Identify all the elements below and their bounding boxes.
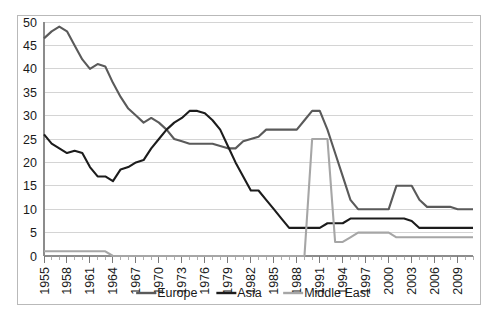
x-axis-tick-label: 2009: [451, 267, 465, 295]
x-axis-tick-label: 1979: [221, 267, 235, 295]
legend-label-asia: Asia: [237, 286, 261, 300]
y-axis-tick-label: 35: [23, 86, 37, 100]
chart-figure: 0510152025303540455019551958196119641967…: [0, 0, 497, 321]
x-axis-tick-label: 2006: [428, 267, 442, 295]
line-chart-plot: 0510152025303540455019551958196119641967…: [0, 0, 497, 321]
y-axis-tick-label: 15: [23, 179, 37, 193]
y-axis-tick-label: 10: [23, 203, 37, 217]
x-axis-tick-label: 1985: [267, 267, 281, 295]
series-line-middle-east: [44, 139, 473, 256]
y-axis-tick-label: 25: [23, 133, 37, 147]
x-axis-tick-label: 1955: [38, 267, 52, 295]
legend-label-middle-east: Middle East: [304, 286, 370, 300]
x-axis-tick-label: 1958: [60, 267, 74, 295]
series-line-europe: [44, 27, 473, 210]
x-axis-tick-label: 1964: [106, 267, 120, 295]
y-axis-tick-label: 5: [30, 226, 37, 240]
series-line-asia: [44, 111, 473, 228]
y-axis-tick-label: 50: [23, 16, 37, 30]
y-axis-tick-label: 40: [23, 62, 37, 76]
x-axis-tick-label: 1976: [198, 267, 212, 295]
y-axis-tick-label: 45: [23, 39, 37, 53]
x-axis-tick-label: 2000: [382, 267, 396, 295]
x-axis-tick-label: 1967: [129, 267, 143, 295]
x-axis-tick-label: 2003: [405, 267, 419, 295]
x-axis-tick-label: 1988: [290, 267, 304, 295]
y-axis-tick-label: 0: [30, 250, 37, 264]
y-axis-tick-label: 20: [23, 156, 37, 170]
legend-label-europe: Europe: [157, 286, 197, 300]
x-axis-tick-label: 1961: [83, 267, 97, 295]
y-axis-tick-label: 30: [23, 109, 37, 123]
